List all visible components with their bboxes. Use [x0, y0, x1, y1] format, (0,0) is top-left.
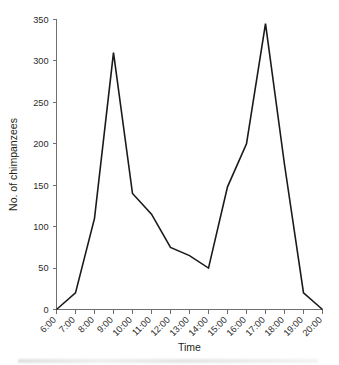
caption-fragment: [18, 359, 318, 363]
y-tick-label: 250: [33, 98, 48, 108]
y-tick-label: 100: [33, 222, 48, 232]
y-tick-label: 200: [33, 139, 48, 149]
y-tick-label: 350: [33, 15, 48, 25]
line-chart: 050100150200250300350 6:007:008:009:0010…: [0, 0, 339, 365]
chart-background: [0, 0, 339, 365]
y-axis-title: No. of chimpanzees: [7, 118, 19, 211]
y-tick-label: 0: [43, 305, 48, 315]
y-tick-label: 150: [33, 181, 48, 191]
y-tick-label: 50: [38, 263, 48, 273]
chart-figure: 050100150200250300350 6:007:008:009:0010…: [0, 0, 339, 365]
x-axis-title: Time: [178, 341, 201, 353]
y-tick-label: 300: [33, 56, 48, 66]
